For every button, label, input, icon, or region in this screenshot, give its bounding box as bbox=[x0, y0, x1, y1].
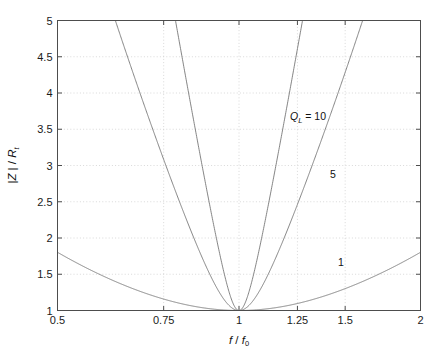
annotation-q-5: 5 bbox=[330, 168, 336, 180]
y-tick-label: 3.5 bbox=[37, 123, 52, 135]
y-tick-label: 1.5 bbox=[37, 268, 52, 280]
x-tick-label: 1.5 bbox=[338, 314, 353, 326]
y-tick-label: 2.5 bbox=[37, 196, 52, 208]
y-tick-label: 1 bbox=[46, 305, 52, 317]
y-tick-label: 4.5 bbox=[37, 51, 52, 63]
plot-background bbox=[0, 0, 433, 362]
y-tick-label: 3 bbox=[46, 160, 52, 172]
y-tick-label: 5 bbox=[46, 15, 52, 27]
chart-plot: 0.50.7511.251.5211.522.533.544.55 QL = 1… bbox=[0, 0, 433, 362]
x-tick-label: 2 bbox=[417, 314, 423, 326]
y-tick-label: 4 bbox=[46, 87, 52, 99]
x-tick-label: 1 bbox=[236, 314, 242, 326]
x-tick-label: 0.75 bbox=[153, 314, 174, 326]
y-tick-label: 2 bbox=[46, 232, 52, 244]
annotation-q-1: 1 bbox=[338, 256, 344, 268]
x-tick-label: 1.25 bbox=[287, 314, 308, 326]
figure-container: 0.50.7511.251.5211.522.533.544.55 QL = 1… bbox=[0, 0, 433, 362]
